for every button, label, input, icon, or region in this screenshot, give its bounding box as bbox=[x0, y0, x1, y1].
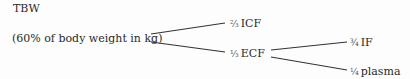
root-subtitle: (60% of body weight in kg) bbox=[12, 33, 162, 44]
node-plasma: ¼plasma bbox=[350, 66, 401, 78]
edge-ecf-plasma bbox=[271, 57, 347, 70]
fraction-ecf: ⅓ bbox=[230, 49, 239, 59]
label-if: IF bbox=[361, 36, 373, 49]
root-title: TBW bbox=[13, 3, 40, 14]
fraction-icf: ⅔ bbox=[230, 19, 239, 29]
fraction-plasma: ¼ bbox=[350, 67, 359, 77]
label-icf: ICF bbox=[241, 17, 261, 30]
body-water-diagram: TBW (60% of body weight in kg) ⅔ICF ⅓ECF… bbox=[0, 0, 410, 79]
label-plasma: plasma bbox=[361, 65, 401, 78]
node-ecf: ⅓ECF bbox=[230, 48, 265, 60]
fraction-if: ¾ bbox=[350, 38, 359, 48]
edge-ecf-if bbox=[271, 42, 347, 50]
node-if: ¾IF bbox=[350, 37, 373, 49]
node-icf: ⅔ICF bbox=[230, 18, 261, 30]
label-ecf: ECF bbox=[241, 47, 265, 60]
